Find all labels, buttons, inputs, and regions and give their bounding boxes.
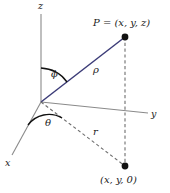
r-segment-line (41, 102, 125, 166)
point-projection-label: (x, y, 0) (100, 175, 137, 185)
y-axis-line (41, 102, 148, 113)
figure-canvas (0, 0, 170, 193)
point-p-dot (122, 34, 129, 41)
theta-angle-label: θ (45, 118, 51, 128)
rho-segment-label: ρ (93, 65, 99, 75)
r-segment-label: r (93, 127, 98, 137)
point-p-label: P = (x, y, z) (93, 18, 150, 28)
x-axis-line (12, 102, 41, 155)
spherical-coordinates-figure: z y x ϕ θ ρ r P = (x, y, z) (x, y, 0) (0, 0, 170, 193)
z-axis-label: z (38, 1, 43, 11)
x-axis-label: x (5, 158, 10, 168)
point-projection-dot (122, 163, 129, 170)
y-axis-label: y (151, 109, 156, 119)
phi-angle-label: ϕ (51, 69, 58, 79)
